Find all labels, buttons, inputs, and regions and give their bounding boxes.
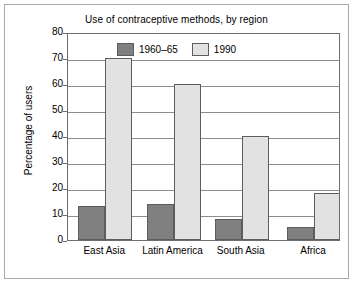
x-axis-category-label: Africa <box>263 245 355 256</box>
y-axis-tick-label: 60 <box>33 79 63 89</box>
bar <box>215 219 242 240</box>
bar <box>105 58 132 240</box>
bar <box>242 136 269 240</box>
y-axis-tick-labels: 01020304050607080 <box>31 33 63 241</box>
y-axis-tick-label: 40 <box>33 131 63 141</box>
plot-area <box>67 33 340 241</box>
bar <box>78 206 105 240</box>
y-axis-tick-label: 10 <box>33 209 63 219</box>
y-axis-tick-label: 20 <box>33 183 63 193</box>
bar <box>314 193 339 240</box>
y-axis-tick-label: 30 <box>33 157 63 167</box>
x-axis-category-labels: East AsiaLatin AmericaSouth AsiaAfrica <box>67 245 340 263</box>
y-axis-tick-label: 0 <box>33 235 63 245</box>
y-axis-tick-label: 80 <box>33 27 63 37</box>
bar <box>287 227 314 240</box>
chart-title: Use of contraceptive methods, by region <box>5 14 348 25</box>
y-axis-tick-label: 50 <box>33 105 63 115</box>
bar <box>147 204 174 240</box>
chart-figure: Use of contraceptive methods, by region … <box>4 4 349 279</box>
bar <box>174 84 201 240</box>
plot-inner <box>68 34 339 240</box>
y-axis-tick-label: 70 <box>33 53 63 63</box>
